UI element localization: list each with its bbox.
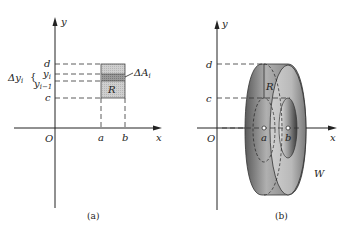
tick-b-b: b (285, 132, 291, 143)
y-axis-arrow-icon (215, 20, 220, 29)
solid-label-w: W (314, 168, 325, 179)
y-axis-label-b: y (221, 18, 228, 29)
delta-a-leader (125, 73, 133, 77)
tick-a-a: a (98, 132, 104, 143)
tick-b-a: b (122, 132, 128, 143)
x-axis-label-a: x (156, 132, 162, 143)
y-axis-arrow-icon (53, 17, 58, 26)
point-a (262, 126, 266, 130)
figure-b: y R x O a b d c W (b) (197, 18, 337, 221)
tick-yi: yi (42, 68, 51, 81)
origin-label-a: O (45, 133, 53, 144)
tick-d-b: d (206, 59, 212, 70)
tick-c-a: c (45, 92, 51, 103)
tick-a-b: a (261, 132, 267, 143)
delta-y-brace: { (30, 71, 36, 82)
origin-label-b: O (207, 133, 215, 144)
delta-a-label: ΔAi (133, 67, 151, 80)
diagram-canvas: y x O R d yi yi−1 c Δyi { a b (0, 0, 347, 230)
y-axis-label-a: y (60, 16, 67, 27)
point-b (286, 126, 290, 130)
x-axis-arrow-icon (153, 126, 162, 131)
region-label-b: R (265, 81, 274, 92)
delta-y-label: Δyi (7, 72, 23, 85)
x-axis-label-b: x (330, 132, 336, 143)
caption-b: (b) (275, 211, 288, 221)
caption-a: (a) (87, 211, 99, 221)
figure-a: y x O R d yi yi−1 c Δyi { a b (7, 16, 162, 221)
region-label-a: R (107, 84, 116, 95)
tick-c-b: c (206, 93, 212, 104)
strip-delta-a (101, 74, 125, 81)
x-axis-arrow-icon (328, 126, 337, 131)
